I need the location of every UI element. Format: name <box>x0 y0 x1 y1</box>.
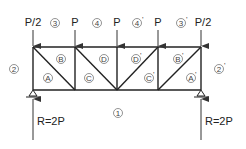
prime-mark: ' <box>195 70 197 79</box>
load-label-2: P <box>71 16 78 28</box>
load-label-3: P <box>113 16 120 28</box>
space-label-4-prime: 4 <box>135 19 140 28</box>
truss-diagram: P/2 P P P P/2 R=2P R=2P 1 2 3 4 4 ' 3 ' … <box>0 0 246 149</box>
prime-mark: ' <box>142 15 144 24</box>
space-label-2-prime: 2 <box>217 65 222 74</box>
panel-label-B: B <box>58 55 63 64</box>
diagonal-3 <box>117 47 158 90</box>
diagonal-2 <box>75 47 117 90</box>
load-arrows <box>33 30 201 46</box>
prime-mark: ' <box>182 51 184 60</box>
prime-mark: ' <box>186 15 188 24</box>
space-label-4: 4 <box>95 19 100 28</box>
panel-label-C: C <box>86 74 92 83</box>
panel-label-A: A <box>45 74 51 83</box>
space-label-3: 3 <box>53 19 58 28</box>
panel-label-D: D <box>101 55 107 64</box>
space-label-1: 1 <box>116 109 121 118</box>
truss-members <box>33 47 201 90</box>
right-support <box>194 90 208 97</box>
diagonal-1 <box>33 47 75 90</box>
panel-label-A-prime: A <box>188 74 194 83</box>
panel-label-B-prime: B <box>175 55 180 64</box>
space-label-3-prime: 3 <box>179 19 184 28</box>
reaction-label-right: R=2P <box>205 115 233 127</box>
panel-label-D-prime: D <box>133 55 139 64</box>
load-label-1: P/2 <box>25 16 42 28</box>
load-label-5: P/2 <box>195 16 212 28</box>
left-support <box>26 90 40 97</box>
diagonal-4 <box>158 47 201 90</box>
space-label-2: 2 <box>12 65 17 74</box>
prime-mark: ' <box>224 61 226 70</box>
load-label-4: P <box>154 16 161 28</box>
panel-label-C-prime: C <box>146 74 152 83</box>
outer-space-labels: 1 2 3 4 4 ' 3 ' 2 ' <box>10 15 227 118</box>
prime-mark: ' <box>153 70 155 79</box>
prime-mark: ' <box>140 51 142 60</box>
inner-panel-labels: A B C D D ' C ' B ' A ' <box>44 51 198 83</box>
reaction-label-left: R=2P <box>37 115 65 127</box>
